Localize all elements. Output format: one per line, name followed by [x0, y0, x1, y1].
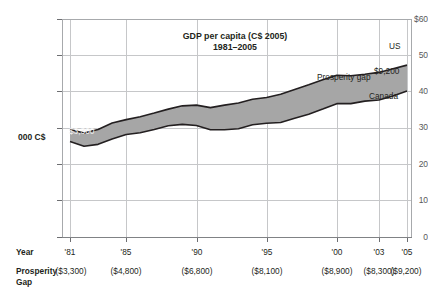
chart-subtitle-text: 1981–2005	[213, 42, 257, 52]
series-label-us: US	[389, 41, 401, 51]
prosperity-gap-value: ($4,800)	[104, 266, 148, 276]
prosperity-gap-value: ($6,800)	[175, 266, 219, 276]
x-tick-label: '03	[365, 247, 393, 257]
x-tick-mark	[197, 238, 198, 242]
chart-figure: $60 50 40 30 20 10 0 000 C$ GDP per capi…	[0, 0, 428, 294]
prosperity-gap-value: ($3,300)	[49, 266, 93, 276]
chart-title-text: GDP per capita (C$ 2005)	[183, 31, 287, 41]
chart-title: GDP per capita (C$ 2005) 1981–2005	[155, 31, 315, 53]
x-tick-mark	[379, 238, 380, 242]
x-tick-label: '95	[253, 247, 281, 257]
x-tick-label: '90	[183, 247, 211, 257]
x-tick-mark	[337, 238, 338, 242]
gap-value-label-1981: $3,300	[69, 126, 94, 136]
x-tick-label: '05	[393, 247, 421, 257]
gap-value-label-2005: $9,200	[374, 66, 399, 76]
x-tick-mark	[267, 238, 268, 242]
prosperity-gap-value: ($9,200)	[384, 266, 428, 276]
prosperity-gap-value: ($8,900)	[315, 266, 359, 276]
row-label-year: Year	[16, 247, 34, 258]
series-label-canada: Canada	[369, 91, 398, 101]
prosperity-gap-value: ($8,100)	[245, 266, 289, 276]
x-tick-mark	[70, 238, 71, 242]
x-tick-label: '00	[323, 247, 351, 257]
x-tick-mark	[407, 238, 408, 242]
x-axis-line	[62, 237, 412, 238]
x-tick-label: '85	[112, 247, 140, 257]
x-tick-label: '81	[56, 247, 84, 257]
band-label-prosperity-gap: Prosperity gap	[317, 72, 371, 82]
y-axis-title: 000 C$	[18, 132, 45, 142]
row-label-prosperity-gap-line2: Gap	[16, 277, 32, 287]
x-tick-mark	[126, 238, 127, 242]
